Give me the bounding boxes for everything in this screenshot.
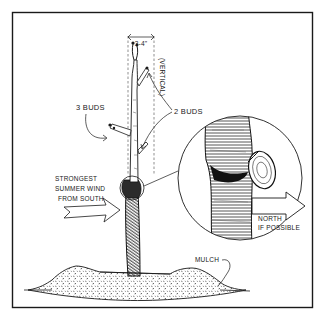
north-label-line2: IF POSSIBLE: [258, 224, 300, 231]
vertical-label: (VERTICAL): [158, 58, 166, 96]
north-label-line1: NORTH: [258, 215, 282, 222]
wind-label-line3: FROM SOUTH: [58, 195, 104, 202]
wind-label-line2: SUMMER WIND: [55, 185, 105, 192]
mulch-label: MULCH: [195, 256, 219, 263]
tree-planting-illustration: 3-4" (VERTICAL) 3 BUDS 2 BUD: [0, 0, 322, 320]
three-buds-label: 3 BUDS: [76, 103, 105, 112]
two-buds-label: 2 BUDS: [174, 107, 203, 116]
wind-label-line1: STRONGEST: [55, 175, 97, 182]
